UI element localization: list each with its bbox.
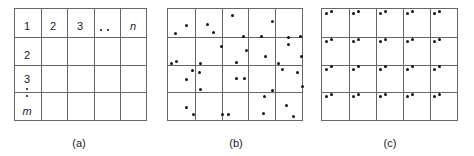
grid-line-horizontal — [322, 92, 457, 93]
panel-c: (c) — [0, 0, 474, 156]
figure-container: 123n23m(a)(b)(c) — [0, 0, 474, 156]
grid — [321, 8, 458, 121]
data-point-dot — [379, 68, 382, 71]
data-point-dot — [433, 68, 436, 71]
data-point-dot — [352, 68, 355, 71]
grid-line-horizontal — [322, 65, 457, 66]
panel-caption: (c) — [370, 138, 410, 149]
grid-line-horizontal — [322, 37, 457, 38]
data-point-dot — [325, 68, 328, 71]
data-point-dot — [406, 68, 409, 71]
